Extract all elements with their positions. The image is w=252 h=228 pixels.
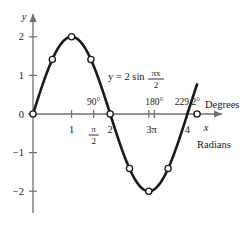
x-tick-label: 2 (108, 124, 113, 135)
y-tick-labels: 210−1−2 (13, 31, 24, 196)
radians-unit-label: Radians (197, 139, 231, 150)
x-tick-labels: 1π223π4 (69, 124, 191, 146)
axes-group (28, 14, 222, 213)
figure-canvas: 1π223π4 210−1−2 90°180°229.2° x y Degree… (0, 0, 252, 228)
x-axis-arrowhead (214, 110, 222, 117)
data-point (69, 34, 75, 40)
data-point (30, 111, 36, 117)
x-tick-label-numerator: π (91, 124, 96, 134)
x-tick-label-denominator: 2 (91, 136, 96, 146)
y-tick-label: 0 (19, 109, 24, 120)
data-point (165, 165, 171, 171)
x-axis-label: x (203, 122, 209, 133)
data-point (194, 111, 200, 117)
data-point (49, 56, 55, 62)
x-tick-label: 1 (69, 124, 74, 135)
y-tick-label: −2 (13, 186, 24, 197)
y-tick-label: 2 (19, 31, 24, 42)
data-point (126, 165, 132, 171)
y-tick-label: −1 (13, 147, 24, 158)
data-point (146, 188, 152, 194)
x-tick-label: π (152, 124, 158, 135)
equation-numerator: πx (151, 68, 161, 78)
y-tick-label: 1 (19, 70, 24, 81)
data-point (88, 56, 94, 62)
degrees-unit-label: Degrees (205, 99, 239, 110)
equation-denominator: 2 (154, 80, 159, 90)
equation-main-text: y = 2 sin (108, 71, 145, 82)
data-point (107, 111, 113, 117)
y-axis-arrowhead (29, 14, 36, 22)
equation-annotation: y = 2 sin πx 2 (108, 68, 164, 90)
y-axis-label: y (21, 11, 27, 22)
degree-label: 90° (87, 97, 101, 107)
degree-label: 180° (145, 97, 163, 107)
x-tick-label: 4 (185, 124, 191, 135)
degree-label: 229.2° (175, 97, 200, 107)
sine-wave-chart: 1π223π4 210−1−2 90°180°229.2° x y Degree… (0, 0, 252, 228)
